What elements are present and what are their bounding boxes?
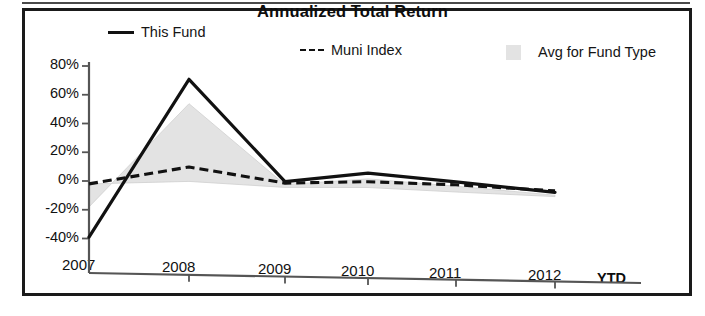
dashed-line-swatch-icon [300,49,324,51]
legend-item-this-fund: This Fund [108,24,205,40]
x-axis-tick-label: 2009 [258,260,291,277]
x-axis-tick-label: 2010 [341,262,374,279]
y-axis-tick-label: -40% [21,229,79,245]
x-axis-tick-label: 2011 [429,264,461,281]
y-axis-tick-label: -20% [21,200,79,216]
y-axis-tick-label: 20% [21,142,79,158]
x-axis-tick-label: 2007 [62,256,95,273]
chart-title: Annualized Total Return [0,2,705,21]
y-axis-tick-label: 40% [21,114,79,130]
gray-square-swatch-icon [506,45,521,60]
solid-line-swatch-icon [108,31,134,34]
y-axis-tick-label: 0% [21,171,79,187]
x-axis-ytd-label: YTD [597,270,626,286]
legend-item-avg-fund-type: Avg for Fund Type [506,44,656,60]
y-axis-tick-label: 80% [21,56,79,72]
legend-label-muni-index: Muni Index [331,42,402,58]
x-axis-tick-label: 2012 [528,266,561,283]
legend-item-muni-index: Muni Index [300,42,402,58]
legend-label-this-fund: This Fund [141,24,205,40]
x-axis-tick-label: 2008 [162,258,195,275]
chart-screenshot: Annualized Total Return This Fund Muni I… [0,0,705,316]
legend-label-avg-fund-type: Avg for Fund Type [538,44,656,60]
y-axis-tick-label: 60% [21,85,79,101]
